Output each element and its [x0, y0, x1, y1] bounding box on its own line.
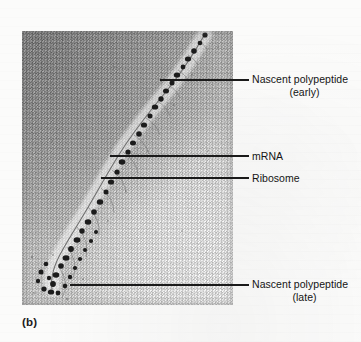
label-mrna: mRNA — [252, 150, 283, 163]
label-nascent-early-line2: (early) — [252, 86, 357, 99]
label-nascent-early-line1: Nascent polypeptide — [252, 73, 348, 85]
label-ribosome: Ribosome — [252, 172, 300, 185]
label-nascent-late-line2: (late) — [252, 291, 357, 304]
micrograph-vignette — [22, 31, 233, 305]
label-nascent-polypeptide-late: Nascent polypeptide (late) — [252, 278, 357, 303]
figure-panel-b: Nascent polypeptide (early) mRNA Ribosom… — [0, 0, 361, 342]
label-nascent-polypeptide-early: Nascent polypeptide (early) — [252, 73, 357, 98]
label-mrna-text: mRNA — [252, 150, 283, 162]
label-nascent-late-line1: Nascent polypeptide — [252, 278, 348, 290]
polysome-electron-micrograph — [22, 31, 233, 305]
label-ribosome-text: Ribosome — [252, 172, 300, 184]
panel-letter: (b) — [22, 316, 37, 328]
